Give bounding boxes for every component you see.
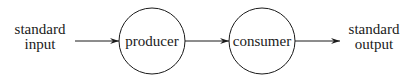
standard-input-line1: standard [15, 21, 66, 37]
producer-node: producer [119, 8, 185, 74]
standard-output-label: standard output [349, 21, 400, 52]
standard-output-line2: output [355, 36, 394, 52]
standard-output-line1: standard [349, 21, 400, 37]
producer-label: producer [125, 33, 178, 49]
consumer-node: consumer [229, 8, 295, 74]
standard-input-label: standard input [15, 21, 66, 52]
pipeline-diagram: standard input producer consumer standar… [0, 0, 418, 78]
standard-input-line2: input [25, 36, 57, 52]
consumer-label: consumer [233, 33, 291, 49]
